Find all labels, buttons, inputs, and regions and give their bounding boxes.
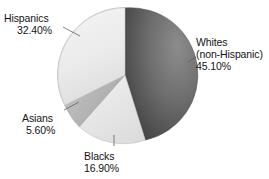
pie-label-whites: Whites (non-Hispanic) 45.10%: [196, 36, 263, 73]
pie-label-blacks-value: 16.90%: [84, 162, 119, 174]
pie-label-blacks: Blacks 16.90%: [84, 150, 119, 174]
pie-label-hispanics-value: 32.40%: [4, 24, 52, 36]
pie-label-whites-name-qualifier: (non-Hispanic): [196, 48, 263, 60]
pie-label-hispanics: Hispanics 32.40%: [4, 12, 52, 36]
pie-label-asians: Asians 5.60%: [22, 112, 55, 136]
pie-label-asians-value: 5.60%: [22, 124, 55, 136]
pie-label-blacks-name: Blacks: [84, 150, 119, 162]
pie-chart-figure: Hispanics 32.40% Whites (non-Hispanic) 4…: [0, 0, 269, 179]
pie-label-asians-name: Asians: [22, 112, 55, 124]
pie-label-whites-name: Whites: [196, 36, 263, 48]
pie-label-hispanics-name: Hispanics: [4, 12, 52, 24]
pie-label-whites-value: 45.10%: [196, 60, 263, 72]
